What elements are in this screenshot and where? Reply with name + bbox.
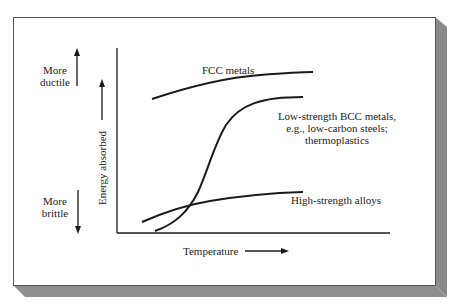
more-brittle-line1: More — [36, 195, 74, 207]
more-ductile-line2: ductile — [36, 76, 74, 88]
annotation-more-ductile: More ductile — [36, 64, 74, 88]
more-ductile-line1: More — [36, 64, 74, 76]
panel-shadow-right — [435, 17, 447, 297]
panel-shadow-bottom — [13, 285, 447, 297]
more-brittle-line2: brittle — [36, 207, 74, 219]
label-low-strength-bcc: Low-strength BCC metals, e.g., low-carbo… — [262, 110, 412, 146]
diagram-canvas — [0, 0, 467, 306]
annotation-more-brittle: More brittle — [36, 195, 74, 219]
label-high-strength-alloys: High-strength alloys — [291, 194, 381, 206]
label-fcc-metals: FCC metals — [202, 64, 254, 76]
y-axis-label: Energy absorbed — [96, 131, 108, 205]
label-bcc-line1: Low-strength BCC metals, — [262, 110, 412, 122]
x-axis-label: Temperature — [183, 245, 238, 257]
figure: FCC metals Low-strength BCC metals, e.g.… — [0, 0, 467, 306]
label-bcc-line2: e.g., low-carbon steels; — [262, 122, 412, 134]
label-bcc-line3: thermoplastics — [262, 134, 412, 146]
